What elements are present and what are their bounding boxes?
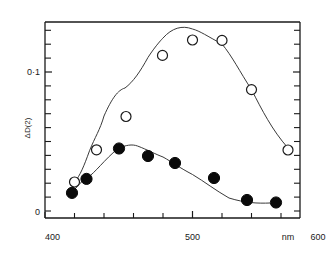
data-point-filled <box>113 143 124 154</box>
data-point-open <box>188 35 198 45</box>
x-tick-label-400: 400 <box>45 232 60 242</box>
data-point-filled <box>169 157 180 168</box>
data-point-filled <box>142 150 153 161</box>
x-axis-units-label: nm <box>282 232 295 242</box>
y-tick-label-0: 0 <box>35 207 40 217</box>
data-point-filled <box>66 187 77 198</box>
x-tick-label-600: 600 <box>310 232 325 242</box>
data-point-filled <box>270 197 281 208</box>
data-point-open <box>283 145 293 155</box>
chart-canvas: 0·1 0 400 500 nm 600 ΔD(2) <box>0 0 336 253</box>
data-point-open <box>247 85 257 95</box>
data-point-filled <box>81 173 92 184</box>
data-point-filled <box>241 194 252 205</box>
data-point-open <box>121 112 131 122</box>
plot-frame <box>45 22 300 218</box>
data-point-open <box>92 145 102 155</box>
data-point-open <box>217 35 227 45</box>
data-point-filled <box>208 172 219 183</box>
y-axis-ticks <box>45 30 52 211</box>
chart-figure: 0·1 0 400 500 nm 600 ΔD(2) <box>0 0 336 253</box>
x-tick-label-500: 500 <box>185 232 200 242</box>
data-point-open <box>158 50 168 60</box>
y-axis-title: ΔD(2) <box>23 117 32 138</box>
right-axis-ticks <box>293 30 300 211</box>
x-axis-ticks <box>45 211 281 218</box>
y-tick-label-0point1: 0·1 <box>27 67 40 77</box>
series-filled-circles-line <box>72 145 270 203</box>
